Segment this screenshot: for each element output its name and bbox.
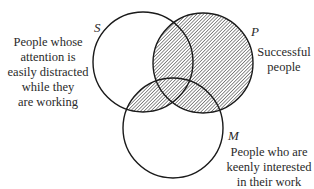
desc-p-line: Successful bbox=[254, 45, 314, 60]
desc-p-line: people bbox=[254, 60, 314, 75]
desc-s-line: are working bbox=[6, 95, 90, 110]
desc-s-line: attention is bbox=[6, 50, 90, 65]
set-label-s: S bbox=[94, 20, 101, 36]
set-label-m: M bbox=[228, 128, 239, 144]
desc-s-line: People whose bbox=[6, 35, 90, 50]
set-label-p: P bbox=[251, 24, 259, 40]
desc-m-line: in their work bbox=[224, 175, 314, 189]
desc-s-line: while they bbox=[6, 80, 90, 95]
desc-s-line: easily distracted bbox=[6, 65, 90, 80]
set-description-p: Successful people bbox=[254, 45, 314, 75]
desc-m-line: People who are bbox=[224, 145, 314, 160]
set-description-m: People who are keenly interested in thei… bbox=[224, 145, 314, 189]
desc-m-line: keenly interested bbox=[224, 160, 314, 175]
set-description-s: People whose attention is easily distrac… bbox=[6, 35, 90, 110]
